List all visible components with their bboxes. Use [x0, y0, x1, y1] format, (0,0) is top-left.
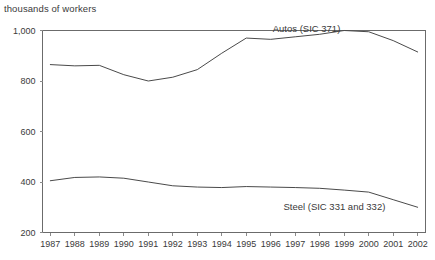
x-tick-label: 1987 [40, 239, 60, 249]
y-tick-label: 800 [20, 76, 35, 86]
x-tick-label: 1988 [65, 239, 85, 249]
y-tick-label: 200 [20, 228, 35, 238]
x-tick-label: 1990 [114, 239, 134, 249]
x-tick-label: 1991 [138, 239, 158, 249]
x-axis-tick-labels: 1987198819891990199119921993199419951996… [40, 239, 427, 249]
x-tick-label: 1993 [187, 239, 207, 249]
line-chart-plot: 2004006008001,000 1987198819891990199119… [0, 0, 435, 260]
series-label-autos: Autos (SIC 371) [273, 23, 341, 34]
chart-series-lines [50, 31, 417, 208]
x-tick-label: 1997 [285, 239, 305, 249]
x-tick-label: 1998 [310, 239, 330, 249]
x-tick-label: 1996 [261, 239, 281, 249]
x-tick-label: 1995 [236, 239, 256, 249]
x-tick-label: 1989 [89, 239, 109, 249]
x-tick-label: 2002 [408, 239, 428, 249]
y-tick-label: 600 [20, 127, 35, 137]
y-tick-label: 1,000 [13, 26, 36, 36]
x-tick-label: 2001 [383, 239, 403, 249]
series-line-autos [50, 31, 417, 82]
x-tick-label: 1994 [212, 239, 232, 249]
chart-page: thousands of workers 2004006008001,000 1… [0, 0, 435, 260]
series-label-steel: Steel (SIC 331 and 332) [283, 201, 385, 212]
y-axis-tick-labels: 2004006008001,000 [13, 26, 36, 238]
x-tick-label: 2000 [359, 239, 379, 249]
x-tick-label: 1999 [334, 239, 354, 249]
x-tick-label: 1992 [163, 239, 183, 249]
y-tick-label: 400 [20, 177, 35, 187]
